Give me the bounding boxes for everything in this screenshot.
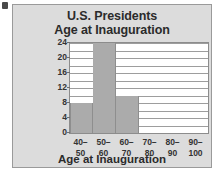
chart-title-line-1: U.S. Presidents <box>13 10 211 24</box>
chart-title: U.S. Presidents Age at Inauguration <box>13 10 211 37</box>
y-tick-mark <box>67 117 70 118</box>
y-tick-label: 4 <box>49 113 67 122</box>
x-axis-label: Age at Inauguration <box>13 153 211 165</box>
bar-60–70 <box>116 96 139 134</box>
bar-50–60 <box>93 43 116 133</box>
y-tick-label: 24 <box>49 38 67 47</box>
y-tick-mark <box>67 102 70 103</box>
y-tick-label: 12 <box>49 83 67 92</box>
chart-title-line-2: Age at Inauguration <box>13 24 211 38</box>
y-tick-mark <box>67 72 70 73</box>
y-tick-label: 8 <box>49 98 67 107</box>
y-tick-mark <box>67 42 70 43</box>
y-tick-label: 0 <box>49 128 67 137</box>
y-axis-tick-labels: 04812162024 <box>47 42 67 134</box>
y-tick-label: 16 <box>49 68 67 77</box>
scan-artifact-mark <box>2 2 8 9</box>
y-tick-mark <box>67 132 70 133</box>
chart-panel: U.S. Presidents Age at Inauguration Freq… <box>12 4 212 168</box>
y-tick-label: 20 <box>49 53 67 62</box>
bar-series <box>70 43 208 133</box>
chart-figure: U.S. Presidents Age at Inauguration Freq… <box>0 0 216 172</box>
y-tick-mark <box>67 87 70 88</box>
plot-area <box>69 42 209 134</box>
y-tick-mark <box>67 57 70 58</box>
bar-40–50 <box>70 103 93 133</box>
